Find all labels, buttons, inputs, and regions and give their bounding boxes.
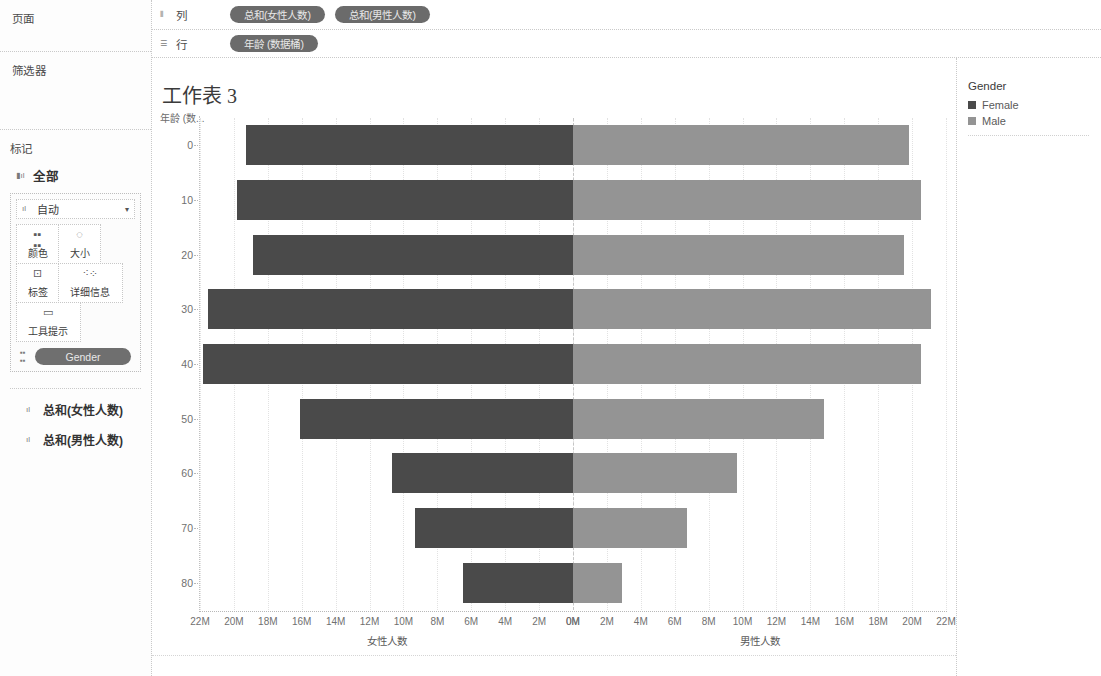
x-axis-tick-label: 12M xyxy=(767,616,786,627)
x-axis-tick-label: 8M xyxy=(702,616,716,627)
rows-shelf-label-group: ☰ 行 xyxy=(152,36,230,52)
gridline xyxy=(946,118,947,610)
bar-segment-male[interactable] xyxy=(573,235,904,275)
measure-male-label: 总和(男性人数) xyxy=(43,431,123,448)
color-squares-icon: ▪▪▪▪ xyxy=(34,229,42,242)
columns-shelf-label-group: ⦀ 列 xyxy=(152,7,230,23)
bar-segment-male[interactable] xyxy=(573,399,824,439)
bar-segment-female[interactable] xyxy=(463,563,573,603)
pill-age-bin[interactable]: 年龄 (数据桶) xyxy=(230,35,318,52)
marks-color-button[interactable]: ▪▪▪▪ 颜色 xyxy=(16,224,59,264)
y-axis-tick-label: 70 xyxy=(181,522,193,534)
columns-shelf-pills: 总和(女性人数) 总和(男性人数) xyxy=(230,6,430,23)
size-icon: ◌ xyxy=(76,229,83,242)
bar-row[interactable] xyxy=(200,180,946,220)
marks-card-label: 标记 xyxy=(10,140,141,156)
measure-icon: ıl xyxy=(26,436,37,444)
measure-item-male[interactable]: ıl 总和(男性人数) xyxy=(20,431,131,448)
bar-row[interactable] xyxy=(200,563,946,603)
bar-segment-female[interactable] xyxy=(203,344,573,384)
bar-segment-male[interactable] xyxy=(573,344,921,384)
chevron-down-icon[interactable]: ▾ xyxy=(125,205,129,214)
x-axis-tick-label: 2M xyxy=(600,616,614,627)
y-axis-tick-mark xyxy=(194,528,198,529)
chart-plot-area: 01020304050607080 xyxy=(200,118,946,610)
bar-row[interactable] xyxy=(200,344,946,384)
bar-segment-female[interactable] xyxy=(300,399,573,439)
row-header-caption: 年龄 (数... xyxy=(160,110,204,125)
bar-segment-female[interactable] xyxy=(208,289,573,329)
tableau-worksheet-window: 页面 筛选器 标记 ▮ıl 全部 ıl 自动 ▾ ▪▪▪▪ 颜色 xyxy=(0,0,1101,676)
legend-item-male[interactable]: Male xyxy=(968,115,1089,127)
y-axis-tick-label: 20 xyxy=(181,249,193,261)
y-axis-tick-mark xyxy=(194,255,198,256)
x-axis-tick-label: 16M xyxy=(292,616,311,627)
view-bottom-divider xyxy=(152,655,956,656)
bar-segment-male[interactable] xyxy=(573,453,737,493)
rows-shelf-pills: 年龄 (数据桶) xyxy=(230,35,318,52)
text-label-icon: ⊡ xyxy=(33,268,42,281)
pill-sum-female[interactable]: 总和(女性人数) xyxy=(230,6,325,23)
bar-segment-female[interactable] xyxy=(392,453,573,493)
columns-shelf[interactable]: ⦀ 列 总和(女性人数) 总和(男性人数) xyxy=(152,0,1101,30)
bar-segment-female[interactable] xyxy=(246,125,573,165)
y-axis-tick-label: 30 xyxy=(181,303,193,315)
bar-segment-male[interactable] xyxy=(573,508,687,548)
measures-list: ıl 总和(女性人数) ıl 总和(男性人数) xyxy=(10,388,141,460)
color-legend: Gender Female Male xyxy=(958,58,1101,676)
marks-label-label: 标签 xyxy=(28,284,48,299)
x-axis-tick-label: 6M xyxy=(668,616,682,627)
x-axis-tick-label: 8M xyxy=(430,616,444,627)
bar-icon: ıl xyxy=(22,205,33,213)
rows-shelf[interactable]: ☰ 行 年龄 (数据桶) xyxy=(152,30,1101,58)
bar-row[interactable] xyxy=(200,235,946,275)
marks-card: ıl 自动 ▾ ▪▪▪▪ 颜色 ◌ 大小 ⊡ 标签 xyxy=(10,193,141,372)
marks-tooltip-button[interactable]: ▭ 工具提示 xyxy=(16,302,81,342)
rows-shelf-label: 行 xyxy=(176,36,187,52)
x-axis-caption-male: 男性人数 xyxy=(740,633,780,648)
marks-gender-pill[interactable]: Gender xyxy=(35,348,131,365)
y-axis-tick-mark xyxy=(194,364,198,365)
x-axis-tick-label: 10M xyxy=(733,616,752,627)
marks-detail-label: 详细信息 xyxy=(70,284,110,299)
x-axis-tick-label: 12M xyxy=(360,616,379,627)
x-axis-tick-label: 16M xyxy=(835,616,854,627)
x-axis-line xyxy=(199,611,947,612)
mark-type-dropdown[interactable]: ıl 自动 ▾ xyxy=(16,199,135,219)
filters-shelf[interactable]: 筛选器 xyxy=(0,52,151,130)
x-axis-tick-label: 18M xyxy=(258,616,277,627)
bar-segment-male[interactable] xyxy=(573,125,909,165)
marks-encoded-field-row[interactable]: ▪▪▪▪ Gender xyxy=(16,348,135,365)
bar-segment-male[interactable] xyxy=(573,289,931,329)
bar-row[interactable] xyxy=(200,399,946,439)
measure-item-female[interactable]: ıl 总和(女性人数) xyxy=(20,401,131,418)
bar-row[interactable] xyxy=(200,125,946,165)
marks-detail-button[interactable]: ⁖⁘ 详细信息 xyxy=(58,263,123,303)
marks-size-button[interactable]: ◌ 大小 xyxy=(58,224,101,264)
page-title: 工作表 3 xyxy=(162,80,237,109)
x-axis-tick-label: 22M xyxy=(936,616,955,627)
marks-color-label: 颜色 xyxy=(28,245,48,260)
y-axis-tick-label: 0 xyxy=(187,139,193,151)
filters-shelf-label: 筛选器 xyxy=(12,62,139,78)
bar-row[interactable] xyxy=(200,289,946,329)
bar-row[interactable] xyxy=(200,508,946,548)
bar-segment-female[interactable] xyxy=(253,235,573,275)
columns-icon: ⦀ xyxy=(160,11,171,19)
x-axis-tick-label: 4M xyxy=(498,616,512,627)
x-axis-tick-label: 14M xyxy=(801,616,820,627)
x-axis-tick-label: 6M xyxy=(464,616,478,627)
pages-shelf[interactable]: 页面 xyxy=(0,0,151,52)
bar-row[interactable] xyxy=(200,453,946,493)
legend-label-female: Female xyxy=(982,99,1019,111)
bar-segment-male[interactable] xyxy=(573,563,622,603)
bar-segment-female[interactable] xyxy=(415,508,573,548)
marks-all-label: 全部 xyxy=(33,166,59,185)
marks-all-row[interactable]: ▮ıl 全部 xyxy=(16,166,141,185)
bar-segment-female[interactable] xyxy=(237,180,573,220)
color-squares-icon: ▪▪▪▪ xyxy=(20,349,31,365)
legend-item-female[interactable]: Female xyxy=(968,99,1089,111)
marks-label-button[interactable]: ⊡ 标签 xyxy=(16,263,59,303)
pill-sum-male[interactable]: 总和(男性人数) xyxy=(335,6,430,23)
bar-segment-male[interactable] xyxy=(573,180,921,220)
